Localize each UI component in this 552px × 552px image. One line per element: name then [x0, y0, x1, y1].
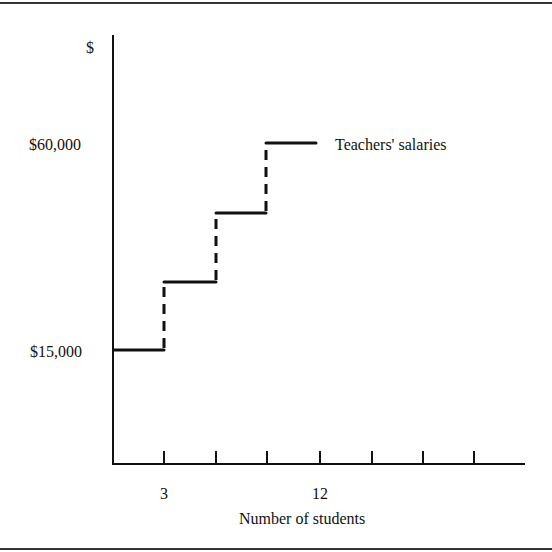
salary-steps [114, 143, 316, 350]
x-ticks [164, 451, 474, 464]
salary-step-risers [164, 145, 266, 348]
x-tick-label-3: 3 [160, 486, 168, 502]
y-axis-unit-label: $ [86, 40, 94, 56]
step-chart [0, 0, 552, 552]
x-axis-title: Number of students [239, 511, 365, 527]
y-tick-label-60000: $60,000 [29, 137, 81, 153]
y-tick-label-15000: $15,000 [30, 344, 82, 360]
series-annotation: Teachers' salaries [335, 137, 446, 153]
x-tick-label-12: 12 [312, 486, 328, 502]
